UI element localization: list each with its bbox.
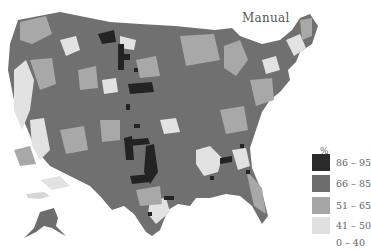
map-title: Manual [242, 11, 290, 25]
legend-label: 86 – 95 [336, 157, 371, 168]
legend-swatch [312, 234, 330, 250]
legend-item-66-85: 66 – 85 [312, 175, 371, 192]
legend-swatch [312, 175, 330, 192]
legend-label: 66 – 85 [336, 178, 371, 189]
legend-swatch [312, 217, 330, 234]
legend-item-86-95: 86 – 95 [312, 154, 371, 171]
legend-label: 41 – 50 [336, 220, 371, 231]
legend-swatch [312, 154, 330, 171]
legend-item-0-40: 0 – 40 [312, 234, 371, 250]
legend-item-51-65: 51 – 65 [312, 197, 371, 214]
legend-item-41-50: 41 – 50 [312, 217, 371, 234]
alaska-shape [24, 208, 74, 240]
legend-swatch [312, 197, 330, 214]
legend-label: 51 – 65 [336, 200, 371, 211]
legend-label: 0 – 40 [336, 237, 365, 248]
